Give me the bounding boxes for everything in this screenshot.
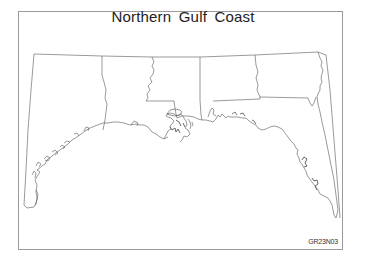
la-ms-border-river — [146, 57, 177, 118]
fl-northern-border — [213, 97, 316, 106]
tx-coast — [24, 131, 85, 208]
map-extent-top — [34, 52, 318, 57]
ms-al-coast — [177, 114, 230, 122]
fl-panhandle-coast — [230, 117, 288, 137]
lake-pontchartrain — [167, 109, 182, 116]
ms-al-border — [200, 57, 202, 120]
al-ga-border — [255, 55, 260, 97]
fl-west-coast — [288, 137, 334, 215]
gulf-coast-map — [0, 0, 366, 265]
figure-code: GR23N03 — [308, 238, 338, 245]
tx-la-border — [102, 56, 107, 130]
ga-atlantic-coast — [317, 52, 323, 97]
la-coast-west — [85, 122, 168, 139]
map-extent-west — [24, 54, 34, 205]
fl-east-coast — [317, 97, 338, 218]
